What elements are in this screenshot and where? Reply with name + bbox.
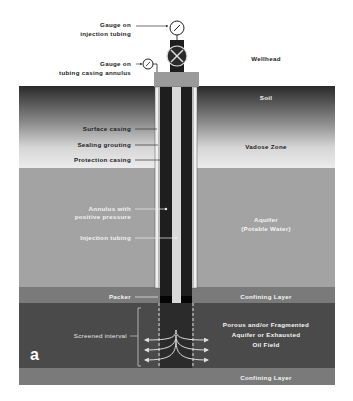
label-annulus-2: positive pressure [75,213,132,220]
label-porous-2: Aquifer or Exhausted [232,331,301,338]
leader-dot [175,237,177,239]
injection-tubing [172,87,181,329]
label-protection-casing: Protection casing [74,156,131,163]
injection-well-diagram: Gauge on injection tubing Gauge on tubin… [0,0,353,401]
figure-label: a [30,346,39,363]
packer [181,296,192,303]
label-injection-tubing: Injection tubing [80,234,131,241]
label-gauge-injection-1: Gauge on [100,21,131,28]
label-gauge-injection-2: injection tubing [80,30,131,37]
label-gauge-annulus-2: tubing casing annulus [59,69,131,76]
label-sealing-grouting: Sealing grouting [77,141,131,148]
packer [160,296,172,303]
label-wellhead: Wellhead [251,55,280,62]
leader-dot [165,208,167,210]
label-porous-3: Oil Field [252,341,279,348]
label-soil: Soil [260,94,273,101]
label-aquifer-2: (Potable Water) [241,225,291,232]
label-surface-casing: Surface casing [83,125,131,132]
label-confining-top: Confining Layer [240,293,292,300]
label-aquifer-1: Aquifer [254,216,278,223]
label-porous-1: Porous and/or Fragmented [223,321,309,328]
wellhead-base [154,72,199,87]
label-screened-interval: Screened interval [74,332,127,339]
annulus-gauge-pipe [153,64,157,72]
label-annulus-1: Annulus with [89,205,131,212]
label-gauge-annulus-1: Gauge on [100,60,131,67]
label-vadose-zone: Vadose Zone [245,143,287,150]
label-confining-bottom: Confining Layer [240,374,292,381]
label-packer: Packer [109,293,131,300]
